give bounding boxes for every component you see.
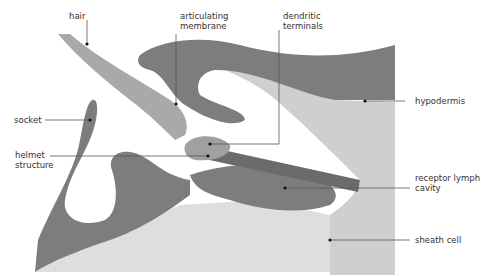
label-dendritic-terminals: dendriticterminals (283, 11, 323, 31)
label-articulating-membrane: articulatingmembrane (180, 11, 229, 31)
label-hypodermis: hypodermis (415, 96, 465, 106)
label-helmet-structure: helmetstructure (15, 150, 54, 170)
label-sheath-cell: sheath cell (415, 235, 461, 245)
label-hair: hair (69, 11, 85, 21)
sensillum-illustration (0, 0, 481, 276)
label-socket: socket (14, 115, 41, 125)
label-receptor-lymph-cavity: receptor lymphcavity (415, 173, 480, 193)
